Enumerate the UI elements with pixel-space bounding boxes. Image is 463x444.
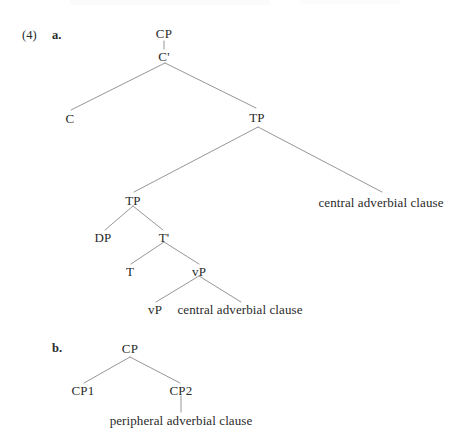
page-header-remnant [70, 0, 270, 5]
node-b-cp2: CP2 [169, 384, 192, 397]
example-number: (4) [22, 29, 37, 42]
node-b-cp1: CP1 [71, 384, 94, 397]
node-tp-upper: TP [249, 111, 265, 124]
edge-vp-adjunct [199, 276, 241, 302]
edge-tp-dp [105, 206, 133, 230]
node-t-bar: T' [159, 231, 170, 244]
edge-b-cp-cp2 [130, 357, 180, 383]
adjunct-cp2-peripheral-adverbial-clause: peripheral adverbial clause [110, 414, 253, 427]
node-vp-upper: vP [192, 265, 206, 278]
edge-cbar-tp [165, 63, 256, 108]
sub-example-label-b: b. [52, 342, 62, 355]
node-dp: DP [94, 231, 111, 244]
node-c: C [66, 112, 75, 125]
edge-tbar-t [131, 242, 164, 264]
node-vp-lower: vP [148, 303, 162, 316]
edge-tbar-vp [164, 242, 199, 264]
node-t: T [126, 265, 134, 278]
edge-cbar-c [71, 63, 165, 110]
figure-page: (4) a. b. CP C' C TP TP DP T' T vP vP ce… [0, 0, 463, 444]
node-c-bar: C' [158, 50, 169, 63]
edge-b-cp-cp1 [84, 357, 130, 383]
node-cp: CP [156, 27, 172, 40]
tree-branch-lines [0, 0, 463, 444]
edge-tp-tbar [133, 206, 163, 230]
adjunct-tp-central-adverbial-clause: central adverbial clause [318, 196, 443, 209]
adjunct-vp-central-adverbial-clause: central adverbial clause [177, 303, 302, 316]
sub-example-label-a: a. [52, 29, 61, 42]
edge-tp-tp [134, 127, 258, 192]
node-tp-lower: TP [125, 194, 141, 207]
edge-vp-vp [156, 276, 199, 302]
node-b-cp: CP [122, 342, 138, 355]
page-header-remnant-right [300, 0, 400, 4]
edge-tp-adjunct [258, 127, 382, 192]
